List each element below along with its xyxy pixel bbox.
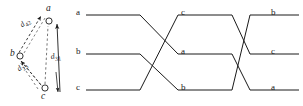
node-a-circle (46, 18, 52, 24)
figure-vector-layer (0, 0, 303, 106)
edge-c-to-a-dashed (45, 26, 48, 84)
node-b-circle (17, 53, 23, 59)
edge-label-d31: d31 (50, 51, 62, 65)
strand-cross1-mid-to-bot (140, 54, 178, 90)
strand-cross1-top-to-mid (140, 15, 178, 54)
node-label-a: a (46, 4, 51, 13)
edge-d31-return (56, 72, 58, 92)
braid-label-mid-bot: b (181, 83, 186, 92)
braid-group (86, 15, 299, 90)
strand-cross2-mid-to-bot (232, 54, 250, 90)
braid-label-right-top: b (271, 8, 276, 17)
braid-label-right-mid: c (271, 47, 275, 56)
figure-canvas: a b c d42 d23 d31 a b c c a b b c a (0, 0, 303, 106)
strand-cross1-bot-to-top (140, 15, 178, 90)
strand-cross2-bot-to-top (232, 15, 250, 90)
braid-label-left-bot: c (76, 83, 80, 92)
braid-label-mid-top: c (181, 8, 185, 17)
braid-label-right-bot: a (271, 83, 275, 92)
braid-label-left-top: a (76, 8, 80, 17)
strand-cross2-top-to-mid (232, 15, 250, 54)
node-label-c: c (41, 92, 45, 101)
node-label-b: b (10, 49, 15, 58)
braid-label-mid-mid: a (181, 47, 185, 56)
braid-label-left-mid: b (76, 47, 81, 56)
